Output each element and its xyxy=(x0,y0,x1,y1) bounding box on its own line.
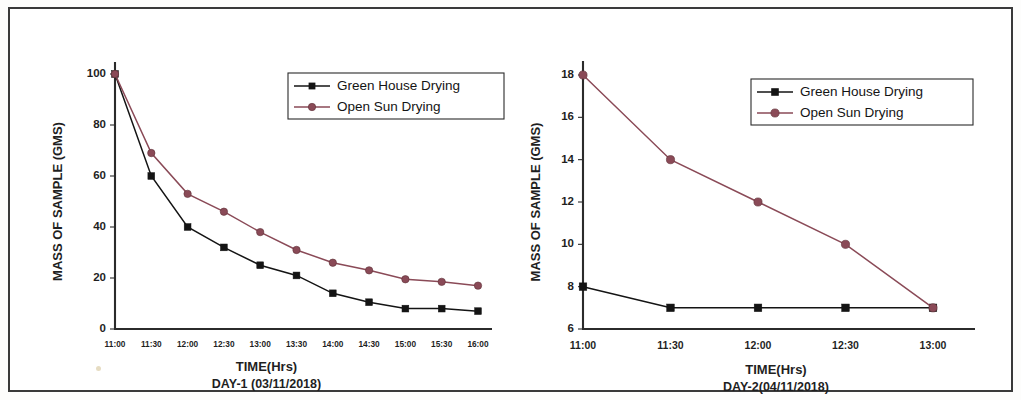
legend-label-green-house: Green House Drying xyxy=(800,84,923,99)
data-point-marker-open-sun xyxy=(666,156,674,164)
legend-label-green-house: Green House Drying xyxy=(337,78,460,93)
data-point-marker-green-house xyxy=(366,299,373,306)
data-point-marker-open-sun xyxy=(579,71,587,79)
chart-panel-day1: 02040608010011:0011:3012:0012:3013:0013:… xyxy=(10,9,515,394)
x-tick-label: 11:00 xyxy=(105,339,126,349)
scan-artifact-speck xyxy=(96,366,101,371)
data-point-marker-green-house xyxy=(257,262,264,269)
x-axis-title: TIME(Hrs) xyxy=(236,359,297,374)
data-point-marker-green-house xyxy=(402,305,409,312)
y-tick-label: 18 xyxy=(561,68,574,80)
x-tick-label: 13:30 xyxy=(286,339,308,349)
legend-label-open-sun: Open Sun Drying xyxy=(337,99,441,114)
data-point-marker-open-sun xyxy=(474,282,481,289)
data-point-marker-green-house xyxy=(184,224,191,231)
data-point-marker-open-sun xyxy=(929,304,937,312)
data-point-marker-open-sun xyxy=(257,228,264,235)
y-axis-title: MASS OF SAMPLE (GMS) xyxy=(528,123,543,282)
x-tick-label: 12:30 xyxy=(213,339,235,349)
data-point-marker-green-house xyxy=(667,304,675,312)
x-tick-label: 13:00 xyxy=(250,339,272,349)
data-point-marker-green-house xyxy=(579,283,587,291)
y-tick-label: 80 xyxy=(93,118,106,130)
x-tick-label: 15:00 xyxy=(395,339,417,349)
y-tick-label: 10 xyxy=(561,237,574,249)
data-point-marker-open-sun xyxy=(148,149,155,156)
legend-label-open-sun: Open Sun Drying xyxy=(800,105,904,120)
x-tick-label: 12:00 xyxy=(745,339,772,351)
x-tick-label: 11:00 xyxy=(570,339,596,351)
y-tick-label: 14 xyxy=(561,153,574,165)
data-point-marker-green-house xyxy=(148,173,155,180)
data-point-marker-open-sun xyxy=(754,198,762,206)
y-axis-title: MASS OF SAMPLE (GMS) xyxy=(50,122,65,281)
data-point-marker-open-sun xyxy=(111,70,118,77)
data-point-marker-green-house xyxy=(221,244,228,251)
x-tick-label: 14:30 xyxy=(358,339,380,349)
data-point-marker-open-sun xyxy=(220,208,227,215)
data-point-marker-open-sun xyxy=(365,267,372,274)
x-axis-title: TIME(Hrs) xyxy=(745,362,806,377)
y-tick-label: 8 xyxy=(568,280,575,292)
legend-marker-open-sun xyxy=(308,103,315,110)
data-point-marker-green-house xyxy=(438,305,445,312)
data-point-marker-open-sun xyxy=(841,240,849,248)
data-point-marker-open-sun xyxy=(293,246,300,253)
x-tick-label: 15:30 xyxy=(431,339,453,349)
x-tick-label: 14:00 xyxy=(322,339,344,349)
data-point-marker-open-sun xyxy=(438,278,445,285)
x-axis-subtitle-date: DAY-2(04/11/2018) xyxy=(723,380,829,394)
x-tick-label: 16:00 xyxy=(467,339,489,349)
data-point-marker-open-sun xyxy=(329,259,336,266)
data-point-marker-green-house xyxy=(329,290,336,297)
y-tick-label: 60 xyxy=(93,169,106,181)
figure-canvas: 02040608010011:0011:3012:0012:3013:0013:… xyxy=(0,0,1021,400)
y-tick-label: 20 xyxy=(93,271,106,283)
y-tick-label: 40 xyxy=(93,220,106,232)
chart-panel-day2: 68101214161811:0011:3012:0012:3013:00TIM… xyxy=(515,9,1015,394)
y-tick-label: 12 xyxy=(561,195,574,207)
line-chart-day2: 68101214161811:0011:3012:0012:3013:00TIM… xyxy=(515,9,1015,394)
x-tick-label: 13:00 xyxy=(920,339,947,351)
legend-marker-green-house xyxy=(309,83,316,90)
line-chart-day1: 02040608010011:0011:3012:0012:3013:0013:… xyxy=(10,9,515,394)
data-point-marker-open-sun xyxy=(184,190,191,197)
x-tick-label: 11:30 xyxy=(657,339,683,351)
data-point-marker-green-house xyxy=(293,272,300,279)
data-point-marker-green-house xyxy=(842,304,850,312)
data-point-marker-open-sun xyxy=(402,276,409,283)
y-tick-label: 6 xyxy=(568,322,574,334)
y-tick-label: 0 xyxy=(100,322,106,334)
legend-marker-green-house xyxy=(771,88,779,96)
x-tick-label: 12:30 xyxy=(832,339,859,351)
x-tick-label: 12:00 xyxy=(177,339,199,349)
y-tick-label: 100 xyxy=(87,67,106,79)
legend-marker-open-sun xyxy=(771,109,779,117)
y-tick-label: 16 xyxy=(561,110,574,122)
x-axis-subtitle-date: DAY-1 (03/11/2018) xyxy=(212,377,321,391)
figure-outer-frame: 02040608010011:0011:3012:0012:3013:0013:… xyxy=(8,7,1013,392)
x-tick-label: 11:30 xyxy=(141,339,162,349)
data-point-marker-green-house xyxy=(754,304,762,312)
data-point-marker-green-house xyxy=(475,308,482,315)
